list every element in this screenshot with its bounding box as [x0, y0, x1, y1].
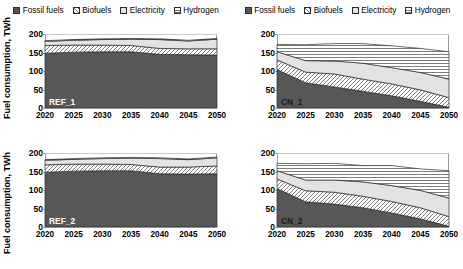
panel-label: CN_1 [281, 97, 302, 107]
x-tick-label: 2030 [325, 111, 343, 120]
stacked-area-series [232, 135, 463, 269]
x-tick-label: 2040 [151, 230, 169, 239]
stacked-area-series [0, 135, 240, 269]
x-tick-label: 2045 [179, 230, 197, 239]
x-tick-labels: 2020202520302035204020452050 [232, 230, 463, 244]
x-tick-label: 2020 [268, 111, 286, 120]
x-tick-label: 2045 [411, 230, 429, 239]
x-tick-label: 2035 [122, 230, 140, 239]
x-tick-label: 2050 [208, 111, 226, 120]
panel-label: CN_2 [281, 216, 302, 226]
x-tick-labels: 2020202520302035204020452050 [232, 111, 463, 125]
x-tick-label: 2025 [65, 111, 83, 120]
chart-grid: Fuel consumption, TWh Fossil fuels Biofu… [0, 0, 463, 269]
x-tick-label: 2030 [93, 230, 111, 239]
x-tick-label: 2025 [65, 230, 83, 239]
x-tick-labels: 2020202520302035204020452050 [0, 111, 232, 125]
x-tick-label: 2020 [268, 230, 286, 239]
x-tick-label: 2025 [297, 230, 315, 239]
x-tick-labels: 2020202520302035204020452050 [0, 230, 232, 244]
x-tick-label: 2040 [151, 111, 169, 120]
x-tick-label: 2040 [383, 111, 401, 120]
x-tick-label: 2035 [354, 230, 372, 239]
x-tick-label: 2045 [179, 111, 197, 120]
x-tick-label: 2035 [354, 111, 372, 120]
x-tick-label: 2025 [297, 111, 315, 120]
panel-label: REF_1 [49, 97, 75, 107]
x-tick-label: 2040 [383, 230, 401, 239]
panel-cn-2: 0501001502002020202520302035204020452050… [232, 135, 463, 269]
x-tick-label: 2035 [122, 111, 140, 120]
x-tick-label: 2050 [440, 111, 458, 120]
x-tick-label: 2050 [440, 230, 458, 239]
panel-ref-1: Fuel consumption, TWh Fossil fuels Biofu… [0, 0, 232, 135]
x-tick-label: 2050 [208, 230, 226, 239]
panel-cn-1: Fossil fuels Biofuels Electricity Hydrog… [232, 0, 463, 135]
x-tick-label: 2045 [411, 111, 429, 120]
panel-ref-2: Fuel consumption, TWh 050100150200202020… [0, 135, 232, 269]
x-tick-label: 2020 [36, 230, 54, 239]
x-tick-label: 2030 [325, 230, 343, 239]
x-tick-label: 2030 [93, 111, 111, 120]
x-tick-label: 2020 [36, 111, 54, 120]
panel-label: REF_2 [49, 216, 75, 226]
